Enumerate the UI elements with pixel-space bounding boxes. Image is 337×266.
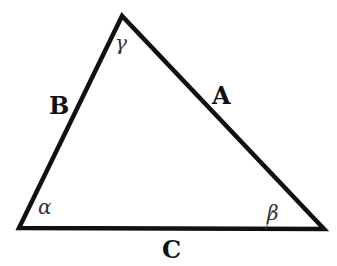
side-label-c: C [162,235,181,264]
angle-label-alpha: α [38,195,52,219]
triangle-outline [19,16,324,229]
angle-label-gamma: γ [115,31,127,55]
side-label-b: B [49,91,69,120]
side-label-a: A [211,81,231,110]
triangle-diagram: B A C γ α β [0,0,337,266]
angle-label-beta: β [266,201,279,225]
